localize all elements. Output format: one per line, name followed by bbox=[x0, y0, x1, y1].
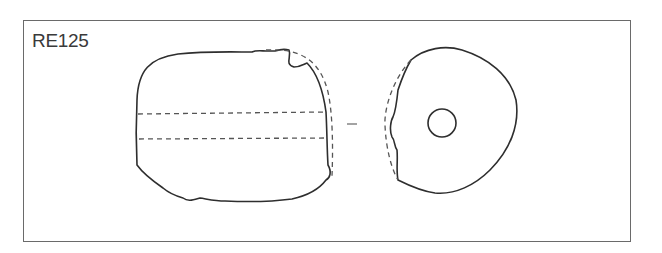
perforation-line-upper bbox=[138, 112, 326, 114]
perforation-line-lower bbox=[139, 138, 325, 139]
end-view bbox=[385, 48, 517, 194]
side-view-outline bbox=[136, 49, 330, 201]
bead-drawing bbox=[0, 0, 662, 253]
end-view-outline bbox=[390, 48, 516, 194]
perforation-hole bbox=[428, 109, 456, 137]
side-view bbox=[136, 49, 332, 201]
